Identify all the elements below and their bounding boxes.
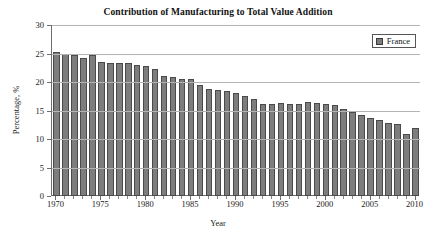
gridline-y-25 <box>52 54 420 55</box>
x-tick-mark-1996 <box>289 196 290 199</box>
x-tick-mark-2007 <box>388 196 389 199</box>
bar-1997 <box>296 104 302 196</box>
bar-1987 <box>206 89 212 196</box>
x-tick-mark-2008 <box>397 196 398 199</box>
x-tick-label-2005: 2005 <box>361 199 378 209</box>
chart-title: Contribution of Manufacturing to Total V… <box>0 7 436 17</box>
chart-container: Contribution of Manufacturing to Total V… <box>0 0 436 242</box>
y-tick-label-20: 20 <box>24 77 44 87</box>
bar-2004 <box>358 115 364 196</box>
bar-1998 <box>305 102 311 196</box>
x-tick-label-1995: 1995 <box>271 199 288 209</box>
bar-2000 <box>323 104 329 196</box>
bar-2002 <box>340 109 346 196</box>
gridline-y-10 <box>52 139 420 140</box>
x-tick-mark-1983 <box>172 196 173 199</box>
gridline-y-20 <box>52 82 420 83</box>
y-tick-mark-20 <box>47 82 51 83</box>
x-tick-mark-2003 <box>352 196 353 199</box>
x-tick-mark-1988 <box>217 196 218 199</box>
bar-2003 <box>349 112 355 196</box>
x-tick-mark-1986 <box>199 196 200 199</box>
x-tick-mark-2001 <box>334 196 335 199</box>
x-tick-mark-1981 <box>154 196 155 199</box>
bar-1985 <box>188 79 194 196</box>
x-tick-mark-1973 <box>82 196 83 199</box>
x-tick-label-1985: 1985 <box>182 199 199 209</box>
y-tick-label-15: 15 <box>24 106 44 116</box>
bar-1988 <box>215 90 221 196</box>
y-tick-mark-0 <box>47 196 51 197</box>
bar-1973 <box>80 58 86 197</box>
bar-1983 <box>170 77 176 196</box>
y-tick-mark-10 <box>47 139 51 140</box>
x-tick-mark-1991 <box>244 196 245 199</box>
bar-2005 <box>367 118 373 196</box>
bar-2001 <box>332 105 338 196</box>
gridline-y-15 <box>52 111 420 112</box>
bar-1979 <box>134 65 140 196</box>
bar-1971 <box>62 54 68 197</box>
y-tick-mark-30 <box>47 25 51 26</box>
x-tick-label-1990: 1990 <box>227 199 244 209</box>
x-tick-mark-1972 <box>73 196 74 199</box>
bar-1995 <box>278 103 284 196</box>
x-axis-label: Year <box>0 218 436 228</box>
x-tick-mark-1978 <box>127 196 128 199</box>
bar-1982 <box>161 76 167 196</box>
x-tick-mark-1998 <box>307 196 308 199</box>
y-tick-mark-25 <box>47 54 51 55</box>
bar-1990 <box>233 93 239 196</box>
x-tick-mark-1971 <box>64 196 65 199</box>
bar-1986 <box>197 85 203 196</box>
y-tick-mark-15 <box>47 111 51 112</box>
bar-1972 <box>71 55 77 196</box>
x-tick-mark-1982 <box>163 196 164 199</box>
x-tick-mark-1993 <box>262 196 263 199</box>
bar-1970 <box>53 52 59 196</box>
bar-1992 <box>251 99 257 196</box>
y-tick-label-25: 25 <box>24 49 44 59</box>
x-tick-label-1980: 1980 <box>137 199 154 209</box>
x-tick-mark-2002 <box>343 196 344 199</box>
bar-2006 <box>376 120 382 196</box>
y-tick-label-30: 30 <box>24 20 44 30</box>
y-tick-label-10: 10 <box>24 134 44 144</box>
bar-2009 <box>403 134 409 196</box>
bar-2008 <box>394 124 400 196</box>
bar-1980 <box>143 66 149 196</box>
x-tick-mark-1987 <box>208 196 209 199</box>
y-tick-mark-5 <box>47 168 51 169</box>
plot-area <box>51 25 419 196</box>
y-tick-label-5: 5 <box>24 163 44 173</box>
gridline-y-5 <box>52 168 420 169</box>
x-tick-label-2000: 2000 <box>316 199 333 209</box>
bar-1994 <box>269 104 275 196</box>
x-tick-mark-1977 <box>118 196 119 199</box>
y-tick-label-0: 0 <box>24 191 44 201</box>
x-tick-label-1970: 1970 <box>47 199 64 209</box>
x-tick-label-2010: 2010 <box>406 199 423 209</box>
bar-1996 <box>287 104 293 196</box>
bar-1981 <box>152 69 158 196</box>
x-tick-mark-1976 <box>109 196 110 199</box>
x-tick-label-1975: 1975 <box>92 199 109 209</box>
x-tick-mark-2006 <box>379 196 380 199</box>
x-tick-mark-1997 <box>298 196 299 199</box>
gridline-y-30 <box>52 25 420 26</box>
bar-1989 <box>224 91 230 196</box>
y-axis-label: Percentage, % <box>11 86 21 135</box>
bar-2007 <box>385 123 391 196</box>
bar-1999 <box>314 103 320 196</box>
bar-1984 <box>179 79 185 196</box>
bar-1974 <box>89 55 95 196</box>
x-tick-mark-1992 <box>253 196 254 199</box>
bar-1993 <box>260 104 266 196</box>
